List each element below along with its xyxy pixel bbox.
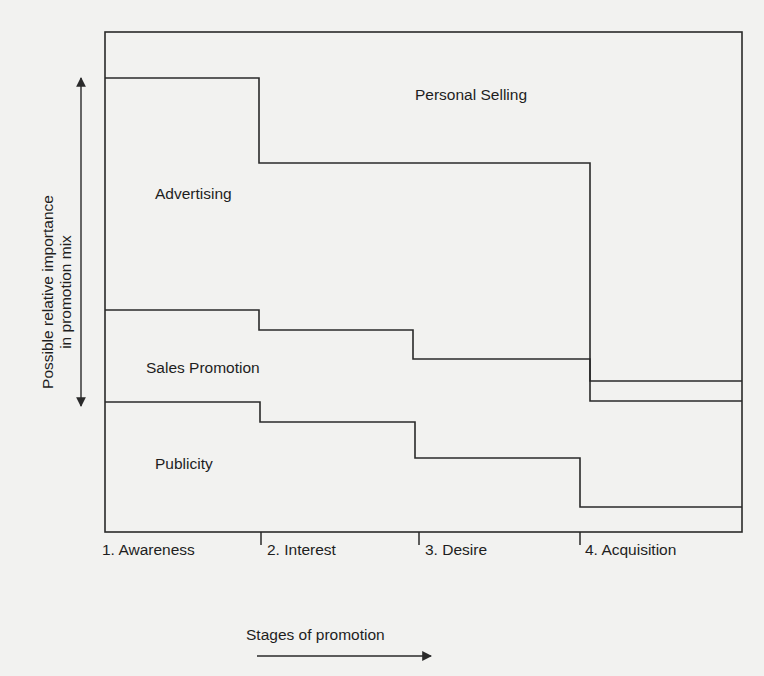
advertising-top-boundary (105, 78, 742, 381)
publicity-label: Publicity (155, 456, 213, 472)
y-axis-title-line1: Possible relative importance (39, 195, 57, 389)
sales-promotion-label: Sales Promotion (146, 360, 260, 376)
advertising-label: Advertising (155, 186, 232, 202)
x-axis-title: Stages of promotion (246, 626, 385, 644)
stage-label-awareness: 1. Awareness (102, 542, 195, 558)
y-axis-title-line2: in promotion mix (57, 195, 75, 389)
promotion-mix-chart: Personal Selling Advertising Sales Promo… (0, 0, 764, 676)
sales-promotion-top-boundary (105, 310, 742, 401)
personal-selling-label: Personal Selling (415, 87, 527, 103)
y-axis-title: Possible relative importance in promotio… (39, 195, 75, 389)
stage-label-desire: 3. Desire (425, 542, 487, 558)
chart-lines (0, 0, 764, 676)
stage-label-interest: 2. Interest (267, 542, 336, 558)
stage-label-acquisition: 4. Acquisition (585, 542, 676, 558)
